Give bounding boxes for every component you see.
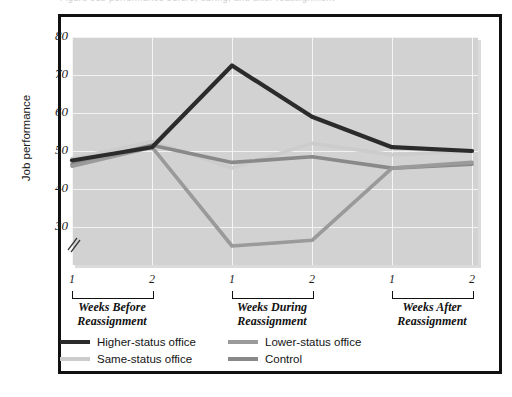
line-chart: 304050607080 Job performance 121212Weeks… — [0, 0, 512, 397]
plot-area — [72, 37, 478, 265]
series-line-same-status-office — [72, 142, 472, 169]
legend-item-control: Control — [228, 353, 302, 365]
legend-swatch-icon — [60, 340, 90, 345]
series-layer — [72, 37, 478, 265]
x-group-label-line1: Weeks After — [403, 300, 462, 314]
legend-item-lower-status-office: Lower-status office — [228, 336, 361, 348]
legend-swatch-icon — [228, 357, 258, 362]
x-group-bracket-1 — [232, 291, 314, 299]
x-group-label-line1: Weeks During — [237, 300, 307, 314]
x-group-bracket-0 — [72, 291, 154, 299]
chart-legend: Higher-status officeSame-status officeLo… — [60, 336, 390, 370]
y-tick-label-50: 50 — [42, 142, 68, 158]
y-tick-label-40: 40 — [42, 180, 68, 196]
y-tick-label-70: 70 — [42, 66, 68, 82]
legend-item-higher-status-office: Higher-status office — [60, 336, 196, 348]
x-tick-label-3: 2 — [303, 272, 321, 287]
legend-label: Lower-status office — [265, 336, 361, 348]
legend-swatch-icon — [228, 340, 258, 345]
x-group-label-line2: Reassignment — [397, 314, 466, 328]
legend-label: Same-status office — [97, 353, 192, 365]
x-group-label-line2: Reassignment — [237, 314, 306, 328]
x-tick-label-5: 2 — [463, 272, 481, 287]
x-group-label-2: Weeks AfterReassignment — [352, 301, 512, 328]
x-tick-label-4: 1 — [383, 272, 401, 287]
series-line-lower-status-office — [72, 147, 472, 246]
y-axis-title: Job performance — [20, 78, 32, 198]
y-tick-label-80: 80 — [42, 28, 68, 44]
y-tick-label-60: 60 — [42, 104, 68, 120]
x-tick-label-0: 1 — [63, 272, 81, 287]
legend-item-same-status-office: Same-status office — [60, 353, 192, 365]
x-tick-label-2: 1 — [223, 272, 241, 287]
axis-break-icon — [66, 236, 82, 254]
legend-label: Control — [265, 353, 302, 365]
y-tick-label-30: 30 — [42, 218, 68, 234]
legend-swatch-icon — [60, 357, 90, 362]
legend-label: Higher-status office — [97, 336, 196, 348]
x-group-bracket-2 — [392, 291, 474, 299]
y-axis-ticks: 304050607080 — [38, 0, 68, 300]
x-group-label-line1: Weeks Before — [78, 300, 145, 314]
x-group-label-0: Weeks BeforeReassignment — [32, 301, 192, 328]
x-group-label-line2: Reassignment — [77, 314, 146, 328]
x-group-label-1: Weeks DuringReassignment — [192, 301, 352, 328]
x-tick-label-1: 2 — [143, 272, 161, 287]
